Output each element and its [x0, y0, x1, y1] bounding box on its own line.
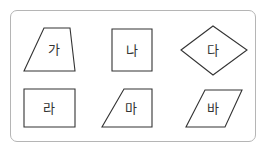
shape-label-ma: 마	[125, 102, 137, 115]
shape-label-ra: 라	[43, 102, 55, 115]
shape-label-ga: 가	[48, 43, 60, 56]
shape-label-na: 나	[126, 44, 138, 57]
shape-label-da: 다	[207, 44, 219, 57]
shape-label-ba: 바	[207, 102, 219, 115]
shapes-canvas	[0, 0, 266, 149]
